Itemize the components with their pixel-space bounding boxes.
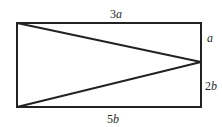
upper-diagonal — [17, 23, 201, 62]
label-bottom-var: b — [113, 112, 119, 126]
label-bottom-5b: 5b — [107, 113, 119, 125]
label-top-var: a — [116, 7, 122, 21]
label-right-lower-var: b — [211, 79, 217, 93]
label-right-upper-var: a — [207, 31, 213, 45]
label-top-3a: 3a — [110, 8, 122, 20]
lower-diagonal — [17, 62, 201, 107]
label-right-upper-a: a — [207, 32, 213, 44]
label-right-lower-2b: 2b — [205, 80, 217, 92]
outer-rectangle — [17, 23, 201, 107]
